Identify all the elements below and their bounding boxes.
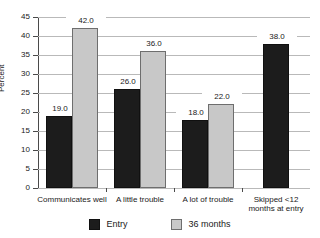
entry-swatch-icon [89,219,100,230]
bar-value-label: 36.0 [134,40,174,48]
y-tick-label: 45 [4,13,30,21]
y-axis-title: Percent [0,64,6,92]
bar-entry [46,116,72,188]
y-tick-label: 0 [4,184,30,192]
bar-value-label: 22.0 [202,93,242,101]
x-tick-mark [174,188,175,192]
bar-entry [114,89,140,188]
bar-36-months [140,51,166,188]
bar-value-label: 38.0 [257,33,297,41]
x-tick-mark [242,188,243,192]
bar-entry [182,120,208,188]
legend-item-entry: Entry [89,219,127,230]
y-tick-label: 25 [4,89,30,97]
y-tick-label: 40 [4,32,30,40]
plot-bars: 19.042.026.036.018.022.038.0 [38,17,310,188]
legend-label-36-months: 36 months [188,220,230,229]
y-tick-label: 15 [4,127,30,135]
y-tick-label: 30 [4,70,30,78]
bar-value-label: 42.0 [66,17,106,25]
y-tick-label: 20 [4,108,30,116]
chart-legend: Entry 36 months [0,219,320,230]
y-tick-label: 5 [4,165,30,173]
x-tick-mark [106,188,107,192]
months36-swatch-icon [171,219,182,230]
y-tick-label: 10 [4,146,30,154]
legend-item-36-months: 36 months [171,219,230,230]
category-label: Skipped <12 months at entry [236,195,316,213]
legend-label-entry: Entry [106,220,127,229]
y-tick-label: 35 [4,51,30,59]
bar-36-months [208,104,234,188]
bar-entry [263,44,289,188]
bar-36-months [72,28,98,188]
bar-chart: Percent 051015202530354045 19.042.026.03… [0,0,320,238]
y-tick-mark [33,188,38,189]
